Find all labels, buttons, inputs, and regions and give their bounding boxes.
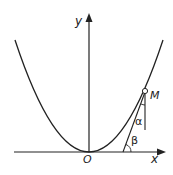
angle-beta-label: β — [131, 134, 138, 147]
x-axis-label: x — [150, 152, 159, 166]
point-m-marker — [142, 88, 147, 93]
angle-alpha-label: α — [135, 115, 142, 128]
origin-label: O — [83, 153, 92, 166]
x-axis-arrow-icon — [157, 149, 166, 156]
y-axis-arrow-icon — [86, 13, 93, 22]
y-axis — [86, 13, 93, 152]
diagram-canvas: y x O M α β — [0, 0, 173, 175]
parabola-diagram: y x O M α β — [0, 0, 173, 175]
y-axis-label: y — [74, 14, 83, 28]
angle-alpha-arc — [141, 104, 145, 105]
point-m-label: M — [150, 89, 160, 102]
